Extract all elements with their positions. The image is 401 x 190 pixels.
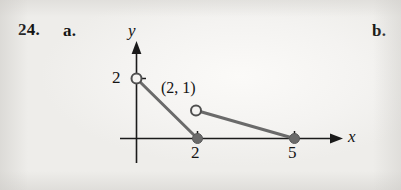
filled-point-2-0 [193,134,203,144]
y-axis-arrowhead [132,41,142,54]
filled-point-5-0 [290,134,300,144]
graph-figure-a [0,0,401,190]
y-axis [132,41,142,163]
open-point-0-2 [132,74,142,84]
x-tick-label-2: 2 [191,143,200,163]
x-axis-label: x [348,127,356,147]
graph-segment-2 [197,111,295,139]
open-point-2-1 [191,106,201,116]
point-annotation: (2, 1) [161,79,196,97]
x-axis [120,134,343,144]
x-axis-arrowhead [330,134,343,144]
y-tick-label-2: 2 [112,68,121,88]
y-axis-label: y [128,21,136,41]
x-tick-label-5: 5 [288,143,297,163]
